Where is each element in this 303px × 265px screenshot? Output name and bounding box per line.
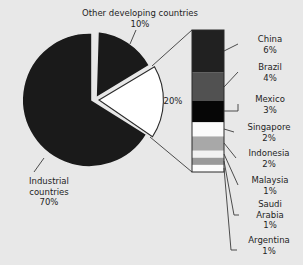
label-singapore: Singapore 2% (236, 122, 302, 143)
bar-segment-saudi-arabia (192, 158, 224, 165)
label-indonesia-value: 2% (238, 159, 300, 170)
pie-chart-figure: Other developing countries 10% Industria… (0, 0, 303, 265)
bar-segment-argentina (192, 165, 224, 172)
label-malaysia: Malaysia 1% (240, 175, 300, 196)
bar-segment-china (192, 30, 224, 73)
label-other-developing-countries: Other developing countries 10% (64, 8, 216, 29)
label-other-developing-value: 10% (64, 19, 216, 30)
label-saudi-line2: Arabia (240, 210, 300, 221)
label-saudi-line1: Saudi (258, 199, 282, 209)
callout-line-bottom (150, 137, 192, 172)
bar-segment-mexico (192, 101, 224, 122)
label-singapore-name: Singapore (248, 122, 291, 132)
label-china-value: 6% (240, 45, 300, 56)
bar-segment-brazil (192, 73, 224, 101)
leader-line-mexico (224, 104, 238, 111)
label-argentina-name: Argentina (248, 235, 289, 245)
label-industrial-line1: Industrial (29, 176, 69, 186)
leader-line-saudi-arabia (224, 161, 239, 215)
label-argentina-value: 1% (238, 246, 300, 257)
label-singapore-value: 2% (236, 133, 302, 144)
label-argentina: Argentina 1% (238, 235, 300, 256)
label-callout-total: 20% (160, 96, 186, 107)
stacked-bar (192, 30, 224, 172)
label-saudi-value: 1% (240, 220, 300, 231)
label-other-developing-name: Other developing countries (82, 8, 198, 18)
label-saudi-arabia: Saudi Arabia 1% (240, 199, 300, 231)
label-china-name: China (258, 34, 282, 44)
label-indonesia: Indonesia 2% (238, 148, 300, 169)
label-malaysia-value: 1% (240, 186, 300, 197)
label-mexico-name: Mexico (255, 94, 285, 104)
label-industrial-countries: Industrial countries 70% (6, 176, 92, 208)
label-industrial-line2: countries (6, 187, 92, 198)
leader-line-singapore (224, 129, 234, 132)
leader-line-malaysia (224, 154, 238, 185)
label-malaysia-name: Malaysia (251, 175, 288, 185)
leader-line-china (224, 44, 238, 51)
label-brazil-value: 4% (240, 73, 300, 84)
bar-segment-singapore (192, 122, 224, 136)
label-indonesia-name: Indonesia (248, 148, 289, 158)
label-industrial-value: 70% (6, 197, 92, 208)
label-mexico: Mexico 3% (240, 94, 300, 115)
leader-line-indonesia (224, 143, 236, 158)
leader-line-brazil (224, 72, 238, 87)
bar-segment-indonesia (192, 137, 224, 151)
leader-line-argentina (224, 168, 237, 250)
label-brazil: Brazil 4% (240, 62, 300, 83)
callout-line-top (152, 30, 192, 66)
label-mexico-value: 3% (240, 105, 300, 116)
label-china: China 6% (240, 34, 300, 55)
leader-line-other-developing (130, 30, 136, 44)
leader-line-industrial (34, 158, 44, 172)
label-brazil-name: Brazil (258, 62, 282, 72)
bar-segment-malaysia (192, 151, 224, 158)
